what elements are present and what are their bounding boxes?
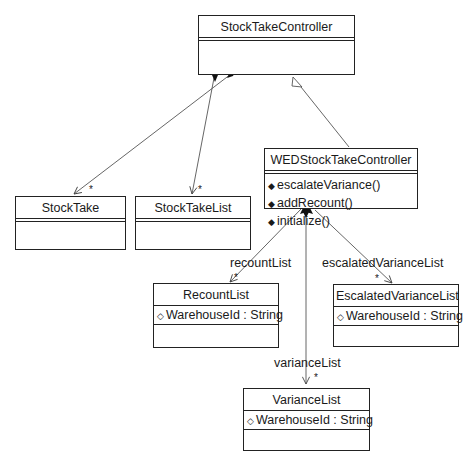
class-name: RecountList xyxy=(154,284,278,306)
attributes-compartment xyxy=(136,219,250,222)
class-name: StockTakeList xyxy=(136,197,250,219)
attribute-icon: ◇ xyxy=(157,311,164,321)
operation-icon: ◆ xyxy=(268,181,275,191)
attribute-warehouse-id: ◇WarehouseId : String xyxy=(244,411,369,430)
operation-initialize: ◆initialize() xyxy=(268,213,414,231)
class-wed-stock-take-controller[interactable]: WEDStockTakeController ◆escalateVariance… xyxy=(264,148,418,209)
multiplicity-recount-list: * xyxy=(234,272,238,283)
multiplicity-stock-take: * xyxy=(89,184,93,195)
role-escalated-variance-list: escalatedVarianceList xyxy=(322,256,443,270)
class-stock-take-list[interactable]: StockTakeList xyxy=(135,196,251,250)
attributes-compartment xyxy=(16,219,125,222)
operation-escalate-variance: ◆escalateVariance() xyxy=(268,177,414,195)
operation-icon: ◆ xyxy=(268,199,275,209)
class-name: StockTake xyxy=(16,197,125,219)
class-stock-take-controller[interactable]: StockTakeController xyxy=(198,15,355,75)
class-variance-list[interactable]: VarianceList ◇WarehouseId : String xyxy=(243,388,370,451)
role-variance-list: varianceList xyxy=(274,356,341,370)
attribute-icon: ◇ xyxy=(247,416,254,426)
operation-icon: ◆ xyxy=(268,217,275,227)
class-name: EscalatedVarianceList xyxy=(334,285,458,307)
operation-add-recount: ◆addRecount() xyxy=(268,195,414,213)
operations-compartment: ◆escalateVariance() ◆addRecount() ◆initi… xyxy=(265,174,417,239)
class-recount-list[interactable]: RecountList ◇WarehouseId : String xyxy=(153,283,279,348)
attributes-compartment xyxy=(199,38,354,41)
class-escalated-variance-list[interactable]: EscalatedVarianceList ◇WarehouseId : Str… xyxy=(333,284,459,347)
class-name: WEDStockTakeController xyxy=(265,149,417,171)
multiplicity-variance-list: * xyxy=(314,372,318,383)
class-stock-take[interactable]: StockTake xyxy=(15,196,126,250)
class-name: VarianceList xyxy=(244,389,369,411)
class-name: StockTakeController xyxy=(199,16,354,38)
attribute-warehouse-id: ◇WarehouseId : String xyxy=(334,307,458,326)
attribute-icon: ◇ xyxy=(337,312,344,322)
multiplicity-escalated-variance-list: * xyxy=(375,273,379,284)
multiplicity-stock-take-list: * xyxy=(198,184,202,195)
attribute-warehouse-id: ◇WarehouseId : String xyxy=(154,306,278,325)
role-recount-list: recountList xyxy=(230,256,291,270)
